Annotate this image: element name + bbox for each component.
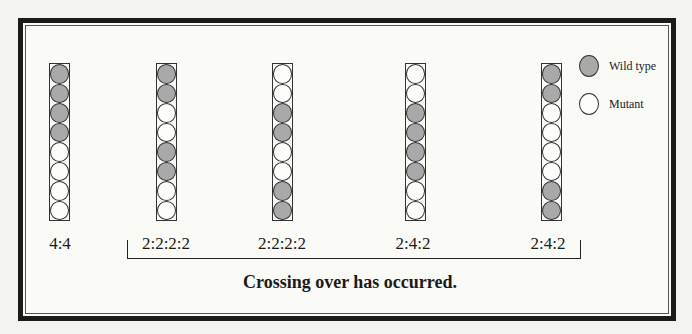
mutant-spore xyxy=(273,84,292,104)
wild-type-spore xyxy=(542,201,561,221)
mutant-spore xyxy=(542,103,561,123)
mutant-spore xyxy=(406,181,425,201)
mutant-spore xyxy=(50,142,69,162)
mutant-spore xyxy=(157,123,176,143)
wild-type-spore xyxy=(273,123,292,143)
mutant-spore xyxy=(273,142,292,162)
mutant-spore xyxy=(406,64,425,84)
mutant-spore xyxy=(50,181,69,201)
wild-type-spore xyxy=(50,84,69,104)
wild-type-spore xyxy=(542,181,561,201)
wild-type-spore xyxy=(542,64,561,84)
frame-inner-border xyxy=(25,25,669,314)
wild-type-spore xyxy=(406,162,425,182)
ascus-4 xyxy=(405,63,426,221)
mutant-spore xyxy=(157,103,176,123)
wild-type-spore xyxy=(406,123,425,143)
wild-type-spore xyxy=(273,103,292,123)
wild-type-spore xyxy=(273,201,292,221)
ascus-1 xyxy=(49,63,70,221)
wild-type-spore xyxy=(50,123,69,143)
legend-mutant-label: Mutant xyxy=(609,97,644,112)
wild-type-spore xyxy=(406,142,425,162)
mutant-spore xyxy=(542,142,561,162)
wild-type-spore xyxy=(157,162,176,182)
wild-type-spore xyxy=(50,103,69,123)
caption: Crossing over has occurred. xyxy=(200,272,500,293)
mutant-spore xyxy=(50,162,69,182)
crossover-bracket xyxy=(127,240,581,259)
wild-type-spore xyxy=(157,64,176,84)
mutant-spore xyxy=(273,162,292,182)
wild-type-spore xyxy=(157,84,176,104)
ascus-2 xyxy=(156,63,177,221)
mutant-spore xyxy=(542,123,561,143)
wild-type-spore xyxy=(50,64,69,84)
mutant-swatch-icon xyxy=(579,93,599,115)
mutant-spore xyxy=(157,181,176,201)
ascus-5 xyxy=(541,63,562,221)
wild-type-spore xyxy=(406,103,425,123)
mutant-spore xyxy=(157,201,176,221)
mutant-spore xyxy=(542,162,561,182)
wild-type-spore xyxy=(273,181,292,201)
ascus-3 xyxy=(272,63,293,221)
ascus-1-ratio: 4:4 xyxy=(20,234,100,254)
legend-wild-label: Wild type xyxy=(609,59,656,74)
mutant-spore xyxy=(406,84,425,104)
mutant-spore xyxy=(50,201,69,221)
mutant-spore xyxy=(406,201,425,221)
mutant-spore xyxy=(273,64,292,84)
wild-type-spore xyxy=(157,142,176,162)
wild-type-swatch-icon xyxy=(579,55,599,77)
wild-type-spore xyxy=(542,84,561,104)
